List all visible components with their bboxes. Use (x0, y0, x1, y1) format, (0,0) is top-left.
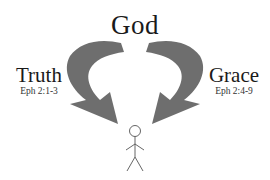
grace-reference: Eph 2:4-9 (208, 86, 260, 96)
grace-label: Grace (208, 65, 260, 86)
left-curved-arrow-icon (67, 41, 124, 124)
grace-group: Grace Eph 2:4-9 (208, 65, 260, 96)
truth-label: Truth (15, 65, 63, 86)
right-curved-arrow-icon (146, 41, 203, 124)
truth-reference: Eph 2:1-3 (15, 86, 63, 96)
stick-figure-icon (126, 126, 144, 172)
truth-group: Truth Eph 2:1-3 (15, 65, 63, 96)
god-label: God (0, 10, 270, 41)
